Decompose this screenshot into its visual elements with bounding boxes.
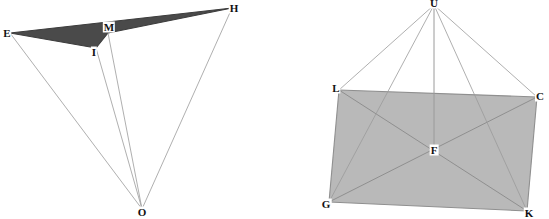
right-diagram-vertex-label-L: L bbox=[331, 83, 340, 94]
right-diagram-segment-UC bbox=[434, 5, 537, 97]
left-diagram-segment-EO bbox=[10, 33, 142, 209]
geometry-figure-canvas: EHMIOULCGKF bbox=[0, 0, 549, 219]
right-diagram-vertex-label-G: G bbox=[321, 199, 332, 210]
left-diagram-vertex-label-E: E bbox=[2, 28, 11, 39]
right-diagram-vertex-label-U: U bbox=[429, 0, 439, 9]
left-diagram-segment-IO bbox=[96, 48, 142, 209]
left-diagram-vertex-label-I: I bbox=[91, 47, 97, 58]
right-diagram-vertex-label-K: K bbox=[524, 208, 535, 219]
left-diagram-segment-MO bbox=[108, 33, 142, 209]
geometry-drawing bbox=[0, 0, 549, 219]
left-diagram-vertex-label-M: M bbox=[103, 22, 115, 33]
left-diagram-vertex-label-O: O bbox=[137, 207, 148, 218]
right-diagram-vertex-label-F: F bbox=[430, 145, 439, 156]
right-diagram-vertex-label-C: C bbox=[535, 91, 545, 102]
left-diagram-segment-HO bbox=[142, 8, 232, 209]
right-diagram-segment-UL bbox=[339, 5, 434, 90]
left-diagram-vertex-label-H: H bbox=[229, 3, 240, 14]
left-diagram-shaded-region bbox=[10, 8, 232, 48]
